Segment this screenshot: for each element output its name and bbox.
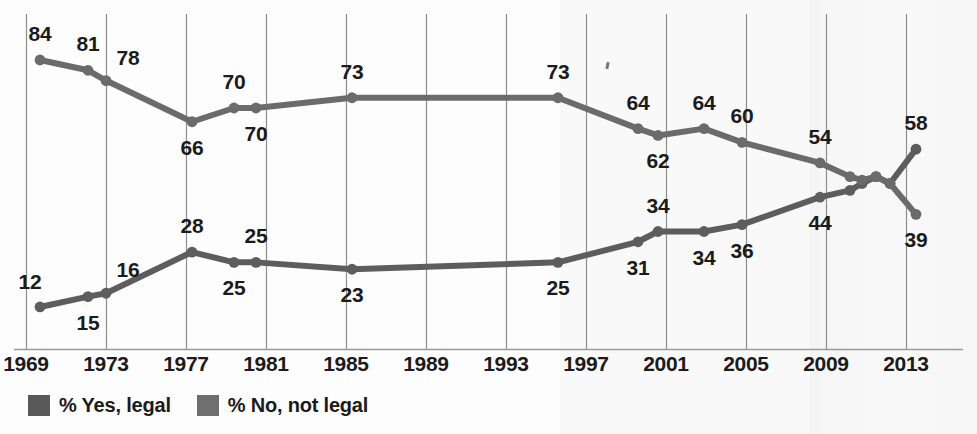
data-label: 60 <box>731 104 754 128</box>
data-label: 31 <box>627 256 650 280</box>
line-chart: 1215162825252325313434364458848178667070… <box>0 0 977 434</box>
x-tick-label-1981: 1981 <box>243 352 289 376</box>
data-label: 25 <box>245 224 268 248</box>
data-label: 54 <box>809 125 832 149</box>
data-label: 23 <box>341 283 364 307</box>
data-label: 70 <box>245 122 268 146</box>
data-label: 39 <box>905 228 928 252</box>
data-label: 62 <box>647 149 670 173</box>
data-label: 44 <box>809 211 832 235</box>
data-label: 12 <box>19 270 42 294</box>
data-label: 73 <box>547 60 570 84</box>
data-label: 58 <box>905 111 928 135</box>
legend-swatch-yes <box>28 395 50 416</box>
data-label: 66 <box>181 136 204 160</box>
data-label: 73 <box>341 60 364 84</box>
data-label: 36 <box>731 239 754 263</box>
data-label: 25 <box>223 276 246 300</box>
x-tick-label-2005: 2005 <box>723 352 769 376</box>
x-tick-label-1973: 1973 <box>83 352 129 376</box>
data-label: 25 <box>547 276 570 300</box>
data-label: 78 <box>117 46 140 70</box>
x-tick-label-1993: 1993 <box>483 352 529 376</box>
legend-label-yes: % Yes, legal <box>59 394 171 417</box>
data-label: 34 <box>693 246 716 270</box>
legend-label-no: % No, not legal <box>228 394 368 417</box>
x-tick-label-2013: 2013 <box>883 352 929 376</box>
x-tick-label-2001: 2001 <box>643 352 689 376</box>
legend-swatch-no <box>197 395 219 416</box>
data-label: 15 <box>77 311 100 335</box>
x-axis-labels: 1969197319771981198519891993199720012005… <box>0 352 977 382</box>
data-label: 64 <box>627 91 650 115</box>
x-tick-label-1989: 1989 <box>403 352 449 376</box>
chart-legend: % Yes, legal % No, not legal <box>28 394 368 417</box>
data-label: 34 <box>647 194 670 218</box>
legend-item-no[interactable]: % No, not legal <box>197 394 368 417</box>
x-tick-label-1997: 1997 <box>563 352 609 376</box>
legend-item-yes[interactable]: % Yes, legal <box>28 394 171 417</box>
x-tick-label-1977: 1977 <box>163 352 209 376</box>
data-label: 70 <box>223 70 246 94</box>
data-label: 28 <box>181 214 204 238</box>
x-tick-label-2009: 2009 <box>803 352 849 376</box>
x-tick-label-1985: 1985 <box>323 352 369 376</box>
data-label: 64 <box>693 91 716 115</box>
data-label: 16 <box>117 258 140 282</box>
x-tick-label-1969: 1969 <box>3 352 49 376</box>
data-label: 81 <box>77 32 100 56</box>
data-label: 84 <box>29 22 52 46</box>
